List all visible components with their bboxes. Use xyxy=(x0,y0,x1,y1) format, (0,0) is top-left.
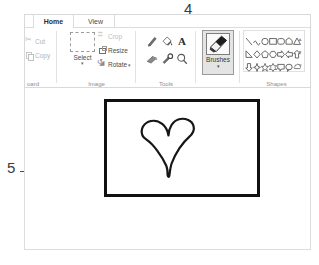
tab-view[interactable]: View xyxy=(77,15,115,28)
chevron-down-icon[interactable]: ▾ xyxy=(128,62,131,68)
text-icon: A xyxy=(175,34,189,48)
copy-label: Copy xyxy=(35,52,50,59)
scroll-down-icon[interactable]: ▼ xyxy=(297,47,303,58)
eraser-icon xyxy=(145,52,159,66)
paint-ribbon-window: Home View Cut Copy oard Select ▾ Crop xyxy=(24,14,311,88)
paint-canvas-area xyxy=(24,88,311,250)
hexagon-shape[interactable] xyxy=(269,46,277,57)
ribbon-group-clipboard: Cut Copy oard xyxy=(9,28,57,88)
group-label-shapes: Shapes xyxy=(241,81,312,87)
chevron-down-icon[interactable]: ▾ xyxy=(68,61,97,66)
heart-drawing xyxy=(137,113,201,181)
shapes-row-2 xyxy=(245,46,305,58)
text-tool-button[interactable]: A xyxy=(175,34,189,48)
ribbon-body: Cut Copy oard Select ▾ Crop Resize Rotat… xyxy=(25,28,310,88)
polygon-shape[interactable] xyxy=(285,33,293,44)
rotate-label: Rotate xyxy=(108,61,127,68)
oval-shape[interactable] xyxy=(261,33,269,44)
group-separator-2 xyxy=(135,31,136,83)
magnifier-icon xyxy=(175,52,189,66)
shapes-row-3 xyxy=(245,59,305,71)
group-separator-1 xyxy=(56,31,57,83)
line-shape[interactable] xyxy=(245,33,253,44)
scissors-icon xyxy=(26,38,33,45)
ribbon-tab-strip: Home View xyxy=(25,15,310,28)
curve-shape[interactable] xyxy=(253,33,261,44)
group-separator-3 xyxy=(195,31,196,83)
paint-bucket-icon xyxy=(160,34,174,48)
callout-number-5: 5 xyxy=(7,160,15,175)
resize-icon xyxy=(98,47,106,54)
rounded-callout-shape[interactable] xyxy=(277,59,285,70)
group-label-tools: Tools xyxy=(137,81,195,87)
shapes-gallery[interactable]: ▲ ▼ ▾ xyxy=(243,30,305,72)
scroll-more-icon[interactable]: ▾ xyxy=(297,60,303,71)
group-label-image: Image xyxy=(58,81,135,87)
magnifier-tool-button[interactable] xyxy=(175,52,189,66)
group-label-clipboard: oard xyxy=(9,81,57,87)
right-triangle-shape[interactable] xyxy=(245,46,253,57)
six-point-star-shape[interactable] xyxy=(269,59,277,70)
oval-callout-shape[interactable] xyxy=(285,59,293,70)
chevron-down-icon[interactable]: ▾ xyxy=(203,64,233,69)
copy-icon xyxy=(26,52,33,59)
rotate-icon xyxy=(98,61,106,68)
four-point-star-shape[interactable] xyxy=(253,59,261,70)
shapes-row-1 xyxy=(245,33,305,45)
rounded-rectangle-shape[interactable] xyxy=(277,33,285,44)
select-button[interactable]: Select ▾ xyxy=(68,32,97,66)
copy-button[interactable]: Copy xyxy=(26,52,50,59)
cut-button[interactable]: Cut xyxy=(26,38,45,45)
crop-button[interactable]: Crop xyxy=(98,33,122,40)
drawing-canvas[interactable] xyxy=(104,99,260,197)
resize-button[interactable]: Resize xyxy=(98,47,128,54)
pentagon-shape[interactable] xyxy=(261,46,269,57)
diamond-shape[interactable] xyxy=(253,46,261,57)
rotate-button[interactable]: Rotate▾ xyxy=(98,61,131,68)
resize-label: Resize xyxy=(108,47,128,54)
ribbon-group-shapes: ▲ ▼ ▾ Shapes xyxy=(241,28,312,88)
crop-label: Crop xyxy=(108,33,122,40)
color-picker-tool-button[interactable] xyxy=(160,52,174,66)
ribbon-group-brushes: Brushes ▾ xyxy=(197,28,239,88)
scroll-up-icon[interactable]: ▲ xyxy=(297,34,303,45)
pencil-icon xyxy=(145,34,159,48)
group-separator-4 xyxy=(239,31,240,83)
crop-icon xyxy=(98,33,106,40)
right-arrow-shape[interactable] xyxy=(277,46,285,57)
color-picker-icon xyxy=(160,52,174,66)
eraser-tool-button[interactable] xyxy=(145,52,159,66)
pencil-tool-button[interactable] xyxy=(145,34,159,48)
left-arrow-shape[interactable] xyxy=(285,46,293,57)
ribbon-group-tools: A xyxy=(137,28,195,88)
fill-tool-button[interactable] xyxy=(160,34,174,48)
rectangle-shape[interactable] xyxy=(269,33,277,44)
cut-label: Cut xyxy=(35,38,45,45)
brush-glyph-icon xyxy=(207,34,229,54)
tab-home[interactable]: Home xyxy=(33,15,74,28)
down-arrow-shape[interactable] xyxy=(245,59,253,70)
five-point-star-shape[interactable] xyxy=(261,59,269,70)
brushes-button[interactable]: Brushes ▾ xyxy=(202,30,234,75)
tools-grid: A xyxy=(144,34,190,72)
shapes-gallery-scrollbar[interactable]: ▲ ▼ ▾ xyxy=(297,33,303,71)
brush-icon xyxy=(206,33,230,55)
selection-rect-icon xyxy=(70,32,95,52)
ribbon-group-image: Select ▾ Crop Resize Rotate▾ Image xyxy=(58,28,135,88)
